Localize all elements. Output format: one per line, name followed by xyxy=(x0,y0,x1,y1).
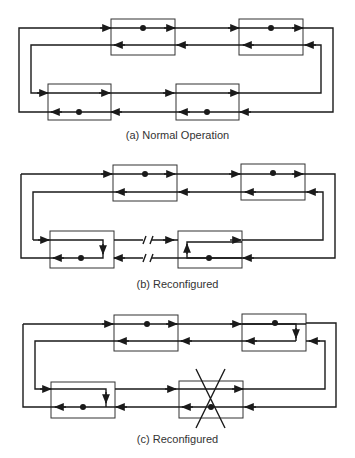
caption-a: (a) Normal Operation xyxy=(0,129,355,141)
diagram-a-normal-operation xyxy=(19,19,333,120)
caption-b: (b) Reconfigured xyxy=(0,278,355,290)
node-box-top-left xyxy=(111,19,175,55)
diagram-c-node-failure xyxy=(23,314,336,428)
station-dot xyxy=(140,25,146,31)
link-break-mark xyxy=(143,236,153,262)
failed-node-x xyxy=(196,369,225,428)
station-dot xyxy=(204,109,210,115)
dual-ring-diagrams xyxy=(0,0,355,458)
station-dot xyxy=(268,25,274,31)
station-dot xyxy=(76,109,82,115)
diagram-b-link-failure xyxy=(21,164,335,268)
node-box-top-right xyxy=(239,19,303,55)
caption-c: (c) Reconfigured xyxy=(0,433,355,445)
